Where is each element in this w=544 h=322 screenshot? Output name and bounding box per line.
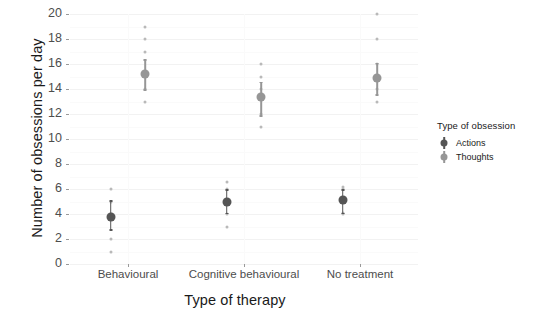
raw-data-point: [260, 75, 263, 78]
raw-data-point: [109, 238, 112, 241]
error-bar-cap: [144, 59, 147, 61]
legend-item-actions[interactable]: Actions: [437, 136, 541, 150]
gridline-vertical: [128, 14, 129, 264]
mean-point: [373, 73, 382, 82]
gridline-vertical: [360, 14, 361, 264]
legend-key-icon: [437, 150, 452, 164]
raw-data-point: [109, 188, 112, 191]
y-tick-label: 14: [36, 81, 62, 95]
y-tick-mark: [66, 139, 69, 140]
raw-data-point: [144, 38, 147, 41]
x-tick-label: Cognitive behavioural: [189, 268, 300, 280]
error-bar-cap: [109, 229, 112, 231]
legend-key-icon: [437, 136, 452, 150]
mean-point: [222, 197, 231, 206]
legend: Type of obsession ActionsThoughts: [437, 120, 541, 164]
y-tick-label: 10: [36, 131, 62, 145]
y-tick-label: 12: [36, 106, 62, 120]
error-bar-cap: [109, 200, 112, 202]
mean-point: [106, 212, 115, 221]
mean-point: [257, 92, 266, 101]
y-tick-mark: [66, 14, 69, 15]
legend-item-thoughts[interactable]: Thoughts: [437, 150, 541, 164]
y-tick-label: 16: [36, 56, 62, 70]
error-bar-cap: [341, 213, 344, 215]
raw-data-point: [144, 100, 147, 103]
y-tick-mark: [66, 114, 69, 115]
x-tick-mark: [128, 264, 129, 267]
raw-data-point: [225, 180, 228, 183]
x-tick-mark: [244, 264, 245, 267]
y-tick-mark: [66, 189, 69, 190]
y-tick-label: 6: [36, 181, 62, 195]
legend-items: ActionsThoughts: [437, 136, 541, 164]
y-tick-label: 2: [36, 231, 62, 245]
y-tick-mark: [66, 264, 69, 265]
raw-data-point: [225, 225, 228, 228]
raw-data-point: [376, 13, 379, 16]
x-tick-label: Behavioural: [98, 268, 159, 280]
y-tick-label: 8: [36, 156, 62, 170]
y-tick-label: 4: [36, 206, 62, 220]
error-bar-cap: [376, 94, 379, 96]
x-tick-mark: [360, 264, 361, 267]
y-tick-label: 18: [36, 31, 62, 45]
error-bar-cap: [260, 115, 263, 117]
y-tick-mark: [66, 39, 69, 40]
y-tick-label: 0: [36, 256, 62, 270]
error-bar-cap: [260, 82, 263, 84]
raw-data-point: [144, 25, 147, 28]
gridline-vertical: [244, 14, 245, 264]
raw-data-point: [376, 100, 379, 103]
error-bar-cap: [225, 213, 228, 215]
legend-item-label: Thoughts: [456, 152, 494, 162]
error-bar-cap: [144, 89, 147, 91]
y-tick-mark: [66, 214, 69, 215]
error-bar-cap: [341, 189, 344, 191]
raw-data-point: [260, 63, 263, 66]
y-tick-label: 20: [36, 6, 62, 20]
y-tick-mark: [66, 239, 69, 240]
raw-data-point: [376, 38, 379, 41]
mean-point: [141, 70, 150, 79]
raw-data-point: [260, 125, 263, 128]
x-axis-title: Type of therapy: [55, 292, 415, 308]
error-bar-cap: [225, 189, 228, 191]
x-tick-label: No treatment: [327, 268, 393, 280]
chart-container: Number of obsessions per day 02468101214…: [0, 0, 544, 322]
y-tick-mark: [66, 164, 69, 165]
y-tick-mark: [66, 64, 69, 65]
legend-item-label: Actions: [456, 138, 486, 148]
mean-point: [338, 196, 347, 205]
raw-data-point: [109, 250, 112, 253]
plot-panel: [70, 14, 418, 264]
raw-data-point: [144, 50, 147, 53]
error-bar-cap: [376, 63, 379, 65]
y-tick-mark: [66, 89, 69, 90]
legend-title: Type of obsession: [437, 120, 541, 131]
